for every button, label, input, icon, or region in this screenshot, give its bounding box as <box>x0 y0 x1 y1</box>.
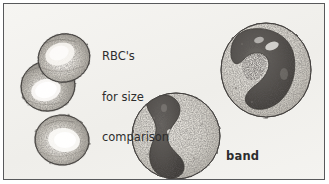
rbc-label-line2: for size <box>102 91 169 105</box>
band-label-line1: band <box>226 149 259 163</box>
rbc-label-line1: RBC's <box>102 50 169 64</box>
rbc-label-line3: comparison <box>102 131 169 145</box>
band-cell-right <box>218 20 316 122</box>
illustration-plate: RBC's for size comparison band cells <box>3 3 325 180</box>
rbc-label: RBC's for size comparison <box>102 23 169 172</box>
band-cells-label: band cells <box>226 121 259 180</box>
rbc-lower <box>28 108 100 176</box>
figure-root: RBC's for size comparison band cells <box>0 0 329 184</box>
rbc-group <box>14 27 100 176</box>
